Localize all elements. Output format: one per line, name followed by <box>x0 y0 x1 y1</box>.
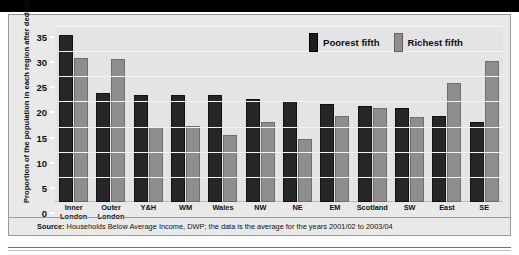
bar <box>261 122 275 202</box>
bar-group <box>279 26 316 202</box>
y-axis-tick-label: 30 <box>36 57 47 68</box>
legend-label: Poorest fifth <box>323 37 380 48</box>
chart-panel: Proportion of the population in each reg… <box>8 14 511 236</box>
bar-group <box>130 26 167 202</box>
bar <box>223 135 237 202</box>
gridline <box>55 177 503 178</box>
y-axis-tick-label: 5 <box>42 182 47 193</box>
y-axis-tick-label: 20 <box>36 107 47 118</box>
y-axis-tick-label: 15 <box>36 132 47 143</box>
chart-figure: Proportion of the population in each reg… <box>0 0 519 255</box>
bottom-rule <box>8 247 511 251</box>
source-bar: Source: Households Below Average Income,… <box>9 217 510 235</box>
richest-fifth-swatch <box>394 33 403 52</box>
bar <box>395 108 409 202</box>
bar <box>358 106 372 202</box>
bar-group <box>167 26 204 202</box>
bar <box>208 95 222 202</box>
bar <box>74 58 88 202</box>
bar-group <box>55 26 92 202</box>
gridline <box>55 101 503 102</box>
y-axis-title-text: Proportion of the population in each reg… <box>22 27 31 203</box>
bar <box>186 126 200 202</box>
top-black-band <box>0 0 519 12</box>
source-text: Source: Households Below Average Income,… <box>9 222 393 231</box>
plot-area <box>55 26 503 202</box>
bar-group <box>316 26 353 202</box>
bar-group <box>354 26 391 202</box>
bar <box>111 59 125 202</box>
bar <box>373 108 387 202</box>
y-axis-tick-label: 35 <box>36 32 47 43</box>
bar <box>149 127 163 202</box>
bar <box>298 139 312 202</box>
bar-group <box>391 26 428 202</box>
bar <box>485 61 499 202</box>
plot-area-wrapper: Inner LondonOuter LondonY&HWMWalesNWNEEM… <box>55 26 503 215</box>
y-axis-tick-label: 10 <box>36 157 47 168</box>
legend-label: Richest fifth <box>408 37 463 48</box>
gridline <box>55 152 503 153</box>
bar-group <box>242 26 279 202</box>
gridline <box>55 127 503 128</box>
poorest-fifth-swatch <box>309 33 318 52</box>
bar <box>171 95 185 202</box>
y-axis-tick-label: 25 <box>36 82 47 93</box>
bar-group <box>466 26 503 202</box>
source-label: Source: <box>37 222 67 231</box>
y-axis-title: Proportion of the population in each reg… <box>19 27 33 203</box>
bar <box>246 99 260 202</box>
gridline <box>55 26 503 27</box>
chart-legend: Poorest fifthRichest fifth <box>309 33 463 52</box>
bar-group <box>204 26 241 202</box>
bar <box>335 116 349 202</box>
bar <box>96 93 110 202</box>
gridline <box>55 76 503 77</box>
legend-item: Poorest fifth <box>309 33 380 52</box>
legend-item: Richest fifth <box>394 33 463 52</box>
bar <box>432 116 446 202</box>
bar <box>320 104 334 202</box>
bar-group <box>92 26 129 202</box>
bar <box>134 95 148 202</box>
bar <box>410 117 424 202</box>
bar <box>470 122 484 202</box>
bar-groups <box>55 26 503 202</box>
bar-group <box>428 26 465 202</box>
source-body: Households Below Average Income, DWP; th… <box>67 222 393 231</box>
